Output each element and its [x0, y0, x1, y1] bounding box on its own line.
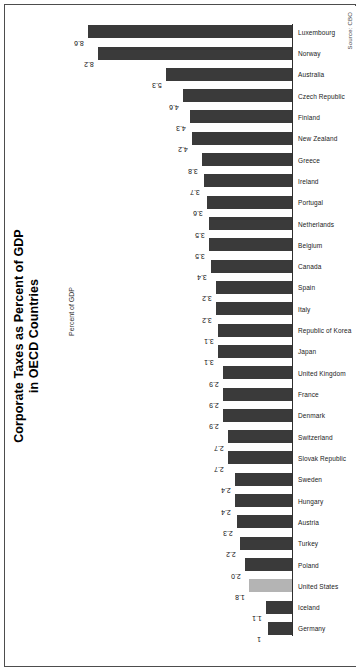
- bar: [209, 217, 292, 230]
- plot-area: 11.11.82.02.22.32.42.42.72.72.92.92.93.1…: [54, 24, 292, 636]
- bar-column: 3.5: [54, 237, 292, 252]
- axis-baseline: [292, 24, 293, 636]
- category-label: New Zealand: [296, 131, 352, 146]
- bar-column: 2.7: [54, 429, 292, 444]
- bar-value-label: 2.9: [217, 373, 227, 382]
- category-label: France: [296, 387, 352, 402]
- bar-value-label: 3.6: [201, 202, 211, 211]
- bar-column: 2.4: [54, 472, 292, 487]
- bar-value-label: 1: [265, 629, 269, 638]
- bar: [190, 111, 292, 124]
- category-label: Ireland: [296, 173, 352, 188]
- category-label: Germany: [296, 621, 352, 636]
- bar-value-label: 3.8: [196, 160, 206, 169]
- bar: [237, 515, 292, 528]
- bar-value-label: 3.2: [210, 309, 220, 318]
- chart-figure: Corporate Taxes as Percent of GDP in OEC…: [6, 6, 356, 666]
- bar-value-label: 3.1: [213, 330, 223, 339]
- category-label: Turkey: [296, 536, 352, 551]
- bar-value-label: 3.7: [198, 181, 208, 190]
- bar-column: 2.0: [54, 557, 292, 572]
- bar-value-label: 3.1: [213, 351, 223, 360]
- bar-value-label: 2.3: [232, 522, 242, 531]
- bar: [192, 132, 292, 145]
- bar: [98, 47, 293, 60]
- bar-column: 4.2: [54, 131, 292, 146]
- chart-title-line1: Corporate Taxes as Percent of GDP: [12, 229, 26, 443]
- bar-value-label: 8.2: [92, 53, 102, 62]
- bar-column: 4.6: [54, 88, 292, 103]
- source-note: Source: CBO: [347, 12, 353, 50]
- category-label: Italy: [296, 301, 352, 316]
- bar-column: 1.1: [54, 600, 292, 615]
- bar-series: 11.11.82.02.22.32.42.42.72.72.92.92.93.1…: [54, 24, 292, 636]
- category-label: Japan: [296, 344, 352, 359]
- bar-column: 2.2: [54, 536, 292, 551]
- bar: [211, 260, 292, 273]
- bar: [218, 345, 292, 358]
- category-label: United Kingdom: [296, 365, 352, 380]
- bar-column: 1: [54, 621, 292, 636]
- category-label: Republic of Korea: [296, 323, 352, 338]
- bar-value-label: 3.4: [205, 266, 215, 275]
- bar: [204, 174, 292, 187]
- bar-column: 8.2: [54, 46, 292, 61]
- category-label: Netherlands: [296, 216, 352, 231]
- category-label: Canada: [296, 259, 352, 274]
- category-label: Sweden: [296, 472, 352, 487]
- bar-value-label: 1.1: [260, 607, 270, 616]
- category-label: Hungary: [296, 493, 352, 508]
- bar-column: 1.8: [54, 578, 292, 593]
- category-label: Belgium: [296, 237, 352, 252]
- category-label: Iceland: [296, 600, 352, 615]
- bar-value-label: 2.7: [222, 437, 232, 446]
- bar: [235, 473, 292, 486]
- bar-column: 2.4: [54, 493, 292, 508]
- category-label: Czech Republic: [296, 88, 352, 103]
- category-label: Slovak Republic: [296, 451, 352, 466]
- category-label: Australia: [296, 67, 352, 82]
- bar-column: 3.1: [54, 323, 292, 338]
- bar: [88, 25, 292, 38]
- bar-column: 3.6: [54, 195, 292, 210]
- bar: [268, 622, 292, 635]
- bar-column: 5.3: [54, 67, 292, 82]
- bar-value-label: 8.6: [82, 32, 92, 41]
- bar-column: 3.8: [54, 152, 292, 167]
- bar-value-label: 2.0: [239, 565, 249, 574]
- bar-value-label: 3.2: [210, 288, 220, 297]
- category-label: Austria: [296, 514, 352, 529]
- category-label: Poland: [296, 557, 352, 572]
- bar-column: 3.7: [54, 173, 292, 188]
- bar-column: 3.4: [54, 259, 292, 274]
- bar-column: 3.2: [54, 301, 292, 316]
- bar: [207, 196, 292, 209]
- bar-column: 2.3: [54, 514, 292, 529]
- bar: [249, 579, 292, 592]
- bar-value-label: 2.9: [217, 415, 227, 424]
- category-label: Denmark: [296, 408, 352, 423]
- bar: [223, 366, 292, 379]
- bar-column: 3.1: [54, 344, 292, 359]
- bar-value-label: 1.8: [243, 586, 253, 595]
- category-label: United States: [296, 578, 352, 593]
- bar: [202, 153, 292, 166]
- bar: [228, 452, 292, 465]
- bar: [223, 409, 292, 422]
- category-label: Switzerland: [296, 429, 352, 444]
- bar: [228, 430, 292, 443]
- bar-column: 2.9: [54, 365, 292, 380]
- bar-column: 3.5: [54, 216, 292, 231]
- bar-column: 2.7: [54, 451, 292, 466]
- category-axis: GermanyIcelandUnited StatesPolandTurkeyA…: [296, 24, 352, 636]
- chart-title: Corporate Taxes as Percent of GDP in OEC…: [12, 6, 42, 666]
- bar: [209, 238, 292, 251]
- bar: [216, 281, 292, 294]
- bar-value-label: 4.6: [177, 96, 187, 105]
- category-label: Norway: [296, 46, 352, 61]
- bar: [245, 558, 292, 571]
- bar-column: 4.3: [54, 110, 292, 125]
- bar: [235, 494, 292, 507]
- bar: [216, 302, 292, 315]
- bar-value-label: 2.7: [222, 458, 232, 467]
